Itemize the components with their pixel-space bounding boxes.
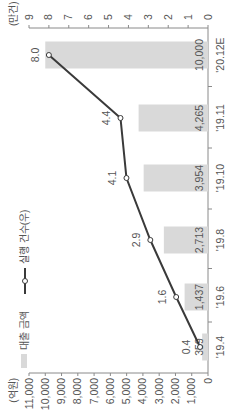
left-axis-tick-label: 6,000: [104, 378, 116, 404]
line-path: [49, 55, 200, 347]
line-marker: [118, 116, 123, 121]
right-axis-tick-label: 2: [162, 14, 174, 20]
bar-data-label: 3,954: [193, 165, 205, 191]
legend-label-bar: 대출 금액: [19, 311, 30, 350]
x-axis-tick-label: '19.6: [214, 286, 226, 309]
legend-swatch-marker: [23, 279, 28, 284]
x-axis-tick-label: '19.10: [214, 164, 226, 192]
left-axis-tick-label: 8,000: [71, 378, 83, 404]
left-axis-tick-label: 1,000: [185, 378, 197, 404]
left-axis-tick-label: 10,000: [39, 378, 51, 410]
bar-data-label: 10,000: [193, 39, 205, 71]
line-series: 0.41.62.94.14.48.0: [29, 48, 203, 355]
left-axis-tick-label: 7,000: [88, 378, 100, 404]
left-axis-unit: (억원): [8, 378, 19, 403]
legend-swatch-bar: [21, 354, 27, 368]
right-axis-tick-label: 9: [23, 14, 35, 20]
right-axis-tick-label: 0: [202, 14, 214, 20]
left-axis-tick-label: 2,000: [169, 378, 181, 404]
line-marker: [198, 345, 203, 350]
line-data-label: 1.6: [156, 290, 168, 305]
line-marker: [174, 295, 179, 300]
x-axis-tick-label: '19.4: [214, 336, 226, 359]
right-axis-tick-label: 3: [142, 14, 154, 20]
left-axis-tick-label: 9,000: [55, 378, 67, 404]
right-axis-tick-label: 5: [102, 14, 114, 20]
line-data-label: 4.1: [106, 171, 118, 186]
bar-data-label: 4,265: [193, 105, 205, 131]
line-data-label: 8.0: [29, 48, 41, 63]
line-data-label: 4.4: [100, 111, 112, 126]
line-marker: [148, 238, 153, 243]
x-axis-tick-label: '19.11: [214, 104, 226, 132]
right-axis-tick-label: 6: [82, 14, 94, 20]
chart-stage: 01,0002,0003,0004,0005,0006,0007,0008,00…: [0, 0, 234, 414]
line-marker: [46, 53, 51, 58]
left-axis-tick-label: 0: [202, 378, 214, 384]
line-data-label: 0.4: [180, 340, 192, 355]
line-data-label: 2.9: [130, 233, 142, 248]
left-axis-tick-label: 4,000: [136, 378, 148, 404]
right-axis-tick-label: 1: [182, 14, 194, 20]
left-axis-tick-label: 5,000: [120, 378, 132, 404]
right-axis-unit: (만건): [8, 1, 19, 26]
x-axis-tick-label: '19.8: [214, 229, 226, 252]
right-axis-tick-label: 8: [42, 14, 54, 20]
line-marker: [124, 176, 129, 181]
combo-chart: 01,0002,0003,0004,0005,0006,0007,0008,00…: [0, 0, 234, 414]
legend-label-line: 실행 건수(우): [19, 210, 30, 264]
bar-data-label: 2,713: [193, 227, 205, 253]
bar: [45, 42, 208, 69]
legend: 대출 금액 실행 건수(우): [19, 210, 30, 368]
right-axis-tick-label: 4: [122, 14, 134, 20]
left-axis-tick-label: 11,000: [23, 378, 35, 409]
bar-data-label: 1,437: [193, 284, 205, 310]
x-axis-tick-label: '20.12E: [214, 37, 226, 72]
left-axis-tick-label: 3,000: [153, 378, 165, 404]
right-axis-tick-label: 7: [62, 14, 74, 20]
